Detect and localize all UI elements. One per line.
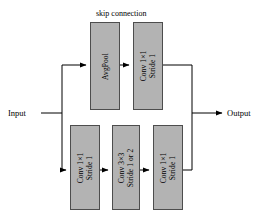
block-main-conv2[interactable]: Conv 3×3 Stride 1 or 2 (112, 125, 140, 210)
block-main-conv3-line2: Stride 1 (168, 152, 177, 183)
block-main-conv1-line2: Stride 1 (85, 152, 94, 183)
block-main-conv1-label: Conv 1×1 Stride 1 (76, 152, 94, 183)
block-main-conv2-line1: Conv 3×3 (117, 152, 126, 183)
block-skip-conv-line2: Stride 1 (148, 51, 157, 82)
conv3-to-merge-line (183, 113, 192, 170)
skip-branch-line (62, 65, 86, 113)
block-avgpool-label: AvgPool (100, 53, 109, 80)
skipconv-to-merge-line (163, 65, 192, 113)
output-label: Output (227, 108, 251, 118)
block-avgpool-line1: AvgPool (100, 53, 109, 80)
diagram-canvas: skip connection Input Output AvgPool Con… (0, 0, 261, 220)
block-main-conv3-line1: Conv 1×1 (159, 152, 168, 183)
block-skip-conv-line1: Conv 1×1 (139, 51, 148, 82)
block-main-conv3-label: Conv 1×1 Stride 1 (159, 152, 177, 183)
block-main-conv2-line2: Stride 1 or 2 (126, 148, 135, 187)
block-skip-conv[interactable]: Conv 1×1 Stride 1 (133, 22, 163, 110)
input-label: Input (8, 108, 26, 118)
block-main-conv1[interactable]: Conv 1×1 Stride 1 (70, 125, 100, 210)
block-main-conv3[interactable]: Conv 1×1 Stride 1 (153, 125, 183, 210)
skip-connection-caption: skip connection (96, 9, 146, 18)
main-branch-line (62, 113, 66, 170)
block-main-conv2-label: Conv 3×3 Stride 1 or 2 (117, 148, 135, 187)
block-skip-conv-label: Conv 1×1 Stride 1 (139, 51, 157, 82)
block-avgpool[interactable]: AvgPool (90, 22, 120, 110)
block-main-conv1-line1: Conv 1×1 (76, 152, 85, 183)
